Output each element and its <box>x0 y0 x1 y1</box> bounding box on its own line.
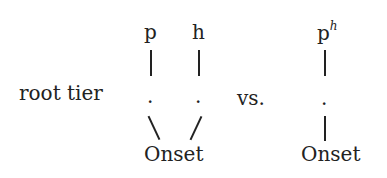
aspiration-superscript: h <box>330 19 338 33</box>
association-line-h-onset <box>190 116 202 140</box>
onset-node-left: Onset <box>144 144 203 164</box>
segment-h: h <box>192 22 205 42</box>
association-line-ph-onset <box>324 116 326 141</box>
root-node-h: . <box>195 86 201 106</box>
segment-aspirated-p: ph <box>317 22 338 43</box>
root-node-p: . <box>147 86 153 106</box>
vs-label: vs. <box>237 88 265 108</box>
onset-node-right: Onset <box>301 144 360 164</box>
association-line-h <box>198 50 200 76</box>
association-line-p-onset <box>148 116 160 140</box>
association-line-ph <box>324 50 326 76</box>
segment-base: p <box>317 21 330 45</box>
association-line-p <box>150 50 152 76</box>
root-node-ph: . <box>321 88 327 108</box>
segment-p: p <box>144 22 157 42</box>
root-tier-label: root tier <box>19 83 103 103</box>
